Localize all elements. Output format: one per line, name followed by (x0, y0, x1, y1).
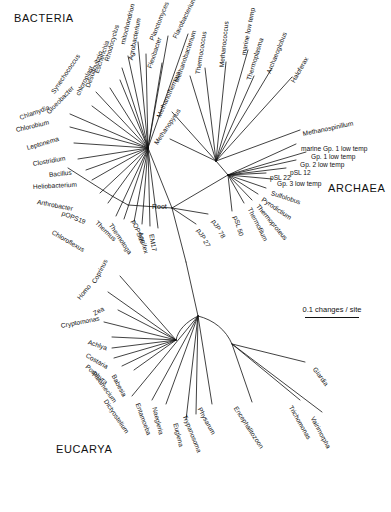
scale-bar-line (305, 317, 359, 318)
eucarya-subtree (104, 276, 322, 420)
taxon-label-gp-1-low-temp: Gp. 1 low temp (311, 154, 355, 161)
bacteria-subtree (70, 34, 188, 228)
root-label: Root (152, 203, 167, 210)
taxon-label-gp-2-low-temp: Gp. 2 low temp (300, 162, 344, 169)
domain-heading-archaea: ARCHAEA (328, 182, 385, 194)
taxon-label-marine-gp-1-low-temp: marine Gp. 1 low temp (301, 146, 367, 153)
domain-heading-eucarya: EUCARYA (56, 443, 112, 455)
scale-bar: 0.1 changes / site (282, 305, 382, 318)
taxon-label-psl-12: pSL 12 (290, 170, 311, 177)
taxon-label-gp-3-low-temp: Gp. 3 low temp (277, 181, 321, 188)
scale-bar-label: 0.1 changes / site (282, 305, 382, 314)
domain-heading-bacteria: BACTERIA (14, 12, 74, 24)
